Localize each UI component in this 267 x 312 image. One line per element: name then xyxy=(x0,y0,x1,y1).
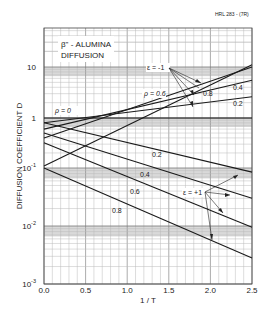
curve xyxy=(44,133,252,198)
curve xyxy=(44,65,252,166)
x-axis-ticks: 0.00.51.01.52.02.5 xyxy=(38,286,258,295)
label-minus-0.2: 0.2 xyxy=(233,100,243,107)
x-tick-label: 1.5 xyxy=(163,286,175,295)
label-plus-0.4: 0.4 xyxy=(140,171,150,178)
curve xyxy=(44,123,252,172)
y-tick-label: 10 xyxy=(27,63,36,72)
eps-minus-label: ε = -1 xyxy=(147,64,164,71)
label-minus-0.8: 0.8 xyxy=(203,90,213,97)
y-tick-label: 10-3 xyxy=(22,278,36,289)
y-tick-label: 10-2 xyxy=(22,220,36,231)
y-tick-label: 10-1 xyxy=(22,162,36,173)
label-minus-0.4: 0.4 xyxy=(233,84,243,91)
figure-id: HRL 283 - (7R) xyxy=(215,11,249,17)
label-plus-0.8: 0.8 xyxy=(112,207,122,214)
label-plus-0.2: 0.2 xyxy=(152,151,162,158)
chart-title-line1: β" - ALUMINA xyxy=(61,40,112,49)
x-tick-label: 2.0 xyxy=(205,286,217,295)
chart-title-line2: DIFFUSION xyxy=(61,51,104,60)
rho-0-label: ρ = 0 xyxy=(54,107,71,115)
x-axis-label: 1 / T xyxy=(140,296,156,305)
y-axis-ticks: 10110-110-210-3 xyxy=(22,63,36,289)
x-tick-label: 0.0 xyxy=(38,286,50,295)
curve xyxy=(44,168,252,258)
x-tick-label: 2.5 xyxy=(246,286,258,295)
x-tick-label: 1.0 xyxy=(122,286,134,295)
eps-plus-label: ε = +1 xyxy=(183,189,202,196)
diffusion-chart: HRL 283 - (7R) β" - ALUMINA DIFFUSION ε … xyxy=(0,0,267,312)
rho-0.6-label: ρ = 0.6 xyxy=(143,90,166,98)
curve xyxy=(44,143,252,228)
x-tick-label: 0.5 xyxy=(80,286,92,295)
y-axis-label: DIFFUSION COEFFICIENT D xyxy=(15,103,24,210)
label-plus-0.6: 0.6 xyxy=(130,188,140,195)
y-tick-label: 1 xyxy=(32,114,37,123)
